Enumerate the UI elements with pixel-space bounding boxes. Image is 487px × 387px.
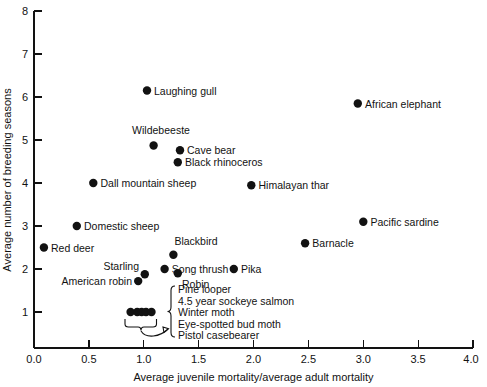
x-tick-label-6: 3.0 (356, 353, 371, 365)
data-point-african-elephant[interactable]: African elephant (354, 98, 441, 110)
data-point-barnacle[interactable]: Barnacle (301, 237, 354, 249)
x-axis-title: Average juvenile mortality/average adult… (133, 371, 374, 383)
marker-himalayan-thar[interactable] (247, 181, 255, 189)
y-tick-label-1: 1 (22, 306, 28, 318)
marker-laughing-gull[interactable] (143, 86, 151, 94)
y-tick-label-4: 4 (22, 177, 28, 189)
point-label-barnacle: Barnacle (312, 237, 354, 249)
marker-song-thrush[interactable] (160, 265, 168, 273)
data-point-wildebeeste[interactable]: Wildebeeste (132, 124, 190, 150)
cluster-leader-arrowhead (163, 327, 169, 333)
data-point-red-deer[interactable]: Red deer (40, 242, 95, 254)
x-axis-ticks (34, 340, 473, 348)
marker-robin[interactable] (174, 269, 182, 277)
point-label-pika: Pika (241, 263, 262, 275)
point-label-african-elephant: African elephant (365, 98, 441, 110)
data-point-himalayan-thar[interactable]: Himalayan thar (247, 179, 330, 191)
plot-area: 8 7 6 5 4 3 2 1 0.0 0.5 1.0 1.5 2 (0, 0, 487, 387)
marker-african-elephant[interactable] (354, 99, 362, 107)
data-point-cluster-y1[interactable] (126, 308, 155, 316)
marker-blackbird[interactable] (169, 251, 177, 259)
data-point-pika[interactable]: Pika (230, 263, 262, 275)
marker-american-robin[interactable] (134, 277, 142, 285)
cluster-label-pistol-casebearer: Pistol casebearer (178, 329, 260, 341)
x-tick-label-0: 0.0 (26, 353, 41, 365)
data-point-laughing-gull[interactable]: Laughing gull (143, 85, 217, 97)
point-label-laughing-gull: Laughing gull (154, 85, 216, 97)
point-label-pacific-sardine: Pacific sardine (371, 216, 439, 228)
cluster-label-eye-spotted-bud-moth: Eye-spotted bud moth (178, 318, 281, 330)
cluster-label-winter-moth: Winter moth (178, 306, 235, 318)
point-label-red-deer: Red deer (51, 242, 95, 254)
data-point-pacific-sardine[interactable]: Pacific sardine (359, 216, 439, 228)
x-axis-tick-labels: 0.0 0.5 1.0 1.5 2.0 2.5 3.0 3.5 4.0 (26, 353, 478, 365)
x-tick-label-3: 1.5 (191, 353, 206, 365)
marker-starling[interactable] (141, 270, 149, 278)
cluster-underbrace (125, 319, 157, 331)
point-label-himalayan-thar: Himalayan thar (259, 179, 330, 191)
data-point-black-rhinoceros[interactable]: Black rhinoceros (174, 156, 263, 168)
marker-barnacle[interactable] (301, 239, 309, 247)
point-label-black-rhinoceros: Black rhinoceros (185, 156, 263, 168)
y-tick-label-8: 8 (22, 5, 28, 17)
point-label-blackbird: Blackbird (174, 235, 217, 247)
marker-cave-bear[interactable] (176, 146, 184, 154)
marker-pacific-sardine[interactable] (359, 218, 367, 226)
data-point-song-thrush[interactable]: Song thrush (160, 263, 228, 275)
marker-pika[interactable] (230, 265, 238, 273)
marker-red-deer[interactable] (40, 243, 48, 251)
cluster-label-list: Pine looper 4.5 year sockeye salmon Wint… (178, 283, 294, 341)
x-tick-label-2: 1.0 (136, 353, 151, 365)
cluster-label-sockeye-salmon: 4.5 year sockeye salmon (178, 295, 294, 307)
point-label-starling: Starling (103, 260, 139, 272)
data-point-american-robin[interactable]: American robin (61, 275, 142, 287)
y-axis-tick-labels: 8 7 6 5 4 3 2 1 (22, 5, 28, 318)
marker-pistol-casebearer[interactable] (147, 308, 155, 316)
x-tick-label-1: 0.5 (81, 353, 96, 365)
y-tick-label-7: 7 (22, 48, 28, 60)
scatter-chart-figure: 8 7 6 5 4 3 2 1 0.0 0.5 1.0 1.5 2 (0, 0, 487, 387)
x-tick-label-4: 2.0 (246, 353, 261, 365)
x-tick-label-5: 2.5 (301, 353, 316, 365)
point-label-wildebeeste: Wildebeeste (132, 124, 190, 136)
x-tick-label-7: 3.5 (410, 353, 425, 365)
marker-black-rhinoceros[interactable] (174, 158, 182, 166)
y-axis-title: Average number of breeding seasons (1, 88, 13, 272)
y-tick-label-5: 5 (22, 134, 28, 146)
data-point-dall-mountain-sheep[interactable]: Dall mountain sheep (89, 177, 196, 189)
x-tick-label-8: 4.0 (463, 353, 478, 365)
marker-domestic-sheep[interactable] (73, 222, 81, 230)
y-tick-label-2: 2 (22, 263, 28, 275)
y-tick-label-6: 6 (22, 91, 28, 103)
data-point-domestic-sheep[interactable]: Domestic sheep (73, 220, 160, 232)
point-label-american-robin: American robin (61, 275, 132, 287)
marker-dall-mountain-sheep[interactable] (89, 179, 97, 187)
y-tick-label-3: 3 (22, 220, 28, 232)
point-label-domestic-sheep: Domestic sheep (84, 220, 159, 232)
point-label-cave-bear: Cave bear (187, 144, 236, 156)
point-label-dall-mountain-sheep: Dall mountain sheep (101, 177, 197, 189)
y-axis-ticks (34, 11, 42, 312)
cluster-label-pine-looper: Pine looper (178, 283, 232, 295)
marker-wildebeeste[interactable] (149, 141, 157, 149)
data-point-blackbird[interactable]: Blackbird (169, 235, 218, 259)
data-point-cave-bear[interactable]: Cave bear (176, 144, 236, 156)
